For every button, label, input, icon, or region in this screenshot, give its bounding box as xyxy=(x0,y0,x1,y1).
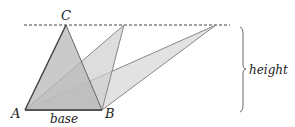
label-c: C xyxy=(61,8,71,23)
height-brace xyxy=(240,27,246,112)
label-b: B xyxy=(104,106,115,121)
triangle-area-diagram: C A B base height xyxy=(0,0,295,127)
label-a: A xyxy=(10,106,20,121)
label-height: height xyxy=(249,63,288,77)
label-base: base xyxy=(50,112,78,126)
